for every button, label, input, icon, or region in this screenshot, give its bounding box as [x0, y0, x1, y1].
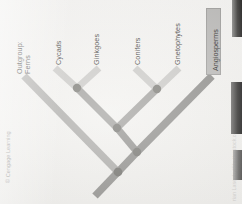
page-gutter-bar-bottom — [233, 150, 242, 180]
credit-cengage: © Cengage Learning — [5, 131, 11, 183]
taxon-label-cycads: Cycads — [55, 40, 63, 65]
branch-node-cycads-ginkgoes-to-clade — [77, 88, 117, 128]
taxon-label-ferns: Outgroup: Ferns — [16, 41, 33, 74]
taxon-label-gnetophytes: Gnetophytes — [174, 23, 182, 65]
page-gutter-bar-top — [232, 0, 242, 37]
node-conifers-gnetophytes — [153, 85, 161, 93]
branch-root-stem — [95, 172, 118, 196]
branch-angiosperms — [137, 76, 212, 152]
node-cycads-ginkgoes — [73, 84, 81, 92]
figure-container: Outgroup: Ferns Cycads Ginkgoes Conifers… — [0, 0, 242, 204]
taxon-label-angiosperms: Angiosperms — [211, 29, 220, 71]
branch-gnetophytes — [157, 68, 179, 89]
branch-node-conifers-gnetos-to-clade — [117, 89, 157, 128]
taxon-label-conifers: Conifers — [134, 37, 142, 65]
branch-ferns — [24, 76, 118, 172]
branch-gymnosperm-clade-to-seed-plants — [117, 128, 137, 152]
taxon-label-ginkgoes: Ginkgoes — [93, 34, 101, 65]
node-seed-plants — [133, 148, 141, 156]
node-gymnosperm-clade — [113, 124, 121, 132]
branch-cycads — [55, 68, 77, 88]
page-gutter-bar-middle — [231, 82, 242, 134]
branch-ginkgoes — [77, 68, 99, 88]
node-root — [114, 168, 123, 177]
branch-conifers — [135, 68, 157, 89]
